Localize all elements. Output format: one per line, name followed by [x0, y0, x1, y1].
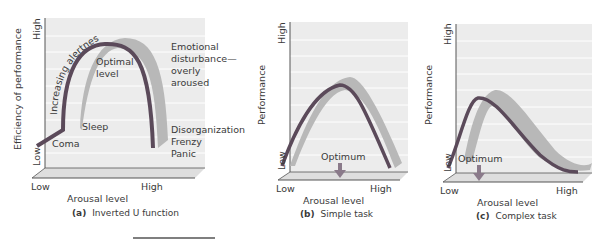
- label-optimal-2: level: [96, 68, 119, 79]
- panel-a-y-low: Low: [31, 147, 42, 166]
- panel-a-x-axis-label: Arousal level: [67, 193, 128, 204]
- label-frenzy: Frenzy: [171, 136, 202, 147]
- panel-a-x-high: High: [141, 181, 163, 192]
- panel-b-x-axis-label: Arousal level: [303, 195, 364, 206]
- panel-c-y-axis-label: Performance: [423, 65, 434, 125]
- panel-a-caption: (a) Inverted U function: [72, 208, 179, 218]
- label-emotional-3: overly: [171, 65, 201, 76]
- label-emotional-4: aroused: [171, 77, 209, 88]
- panel-inverted-u: Increasing alertness Optimal level Sleep…: [0, 0, 245, 218]
- panel-c-x-low: Low: [440, 185, 459, 196]
- label-optimal-1: Optimal: [96, 56, 134, 67]
- yerkes-dodson-figure: Increasing alertness Optimal level Sleep…: [0, 0, 608, 245]
- panel-b-x-high: High: [370, 183, 392, 194]
- panel-b-y-low: Low: [276, 151, 287, 170]
- panel-c-floor: [443, 173, 592, 182]
- panel-c-optimum-label: Optimum: [458, 153, 502, 164]
- panel-b-y-axis-label: Performance: [256, 65, 267, 125]
- panel-c-y-high: High: [442, 23, 453, 45]
- label-emotional-2: disturbance—: [171, 53, 237, 64]
- panel-a-y-high: High: [31, 18, 42, 40]
- label-disorganization: Disorganization: [171, 124, 245, 135]
- label-emotional-1: Emotional: [171, 41, 219, 52]
- panel-b-optimum-label: Optimum: [321, 151, 365, 162]
- panel-c-x-high: High: [556, 185, 578, 196]
- panel-a-x-low: Low: [31, 181, 50, 192]
- panel-a-y-axis-label: Efficiency of performance: [12, 28, 23, 150]
- panel-b-x-low: Low: [276, 183, 295, 194]
- panel-b-caption: (b) Simple task: [300, 209, 374, 219]
- panel-complex-task: Optimum High Low Performance Low High Ar…: [423, 23, 592, 221]
- panel-c-x-axis-label: Arousal level: [477, 197, 538, 208]
- panel-simple-task: Optimum High Low Performance Low High Ar…: [256, 22, 408, 219]
- label-sleep: Sleep: [82, 121, 108, 132]
- label-coma: Coma: [52, 138, 80, 149]
- label-panic: Panic: [171, 148, 196, 159]
- panel-c-y-low: Low: [442, 153, 453, 172]
- panel-b-y-high: High: [276, 22, 287, 44]
- panel-c-caption: (c) Complex task: [476, 211, 558, 221]
- panel-a-floor: [32, 168, 205, 178]
